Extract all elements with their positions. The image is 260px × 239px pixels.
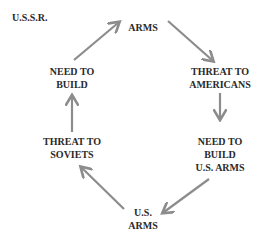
node-label: NEED TO [195, 135, 244, 148]
node-label: BUILD [195, 148, 244, 161]
node-label: ARMS [128, 219, 157, 232]
node-label: ARMS [128, 21, 157, 34]
node-arms: ARMS [128, 21, 157, 34]
node-label: AMERICANS [189, 78, 251, 91]
node-label: THREAT TO [43, 135, 101, 148]
arrow-need-build-us-to-us-arms [164, 179, 209, 212]
node-need-to-build: NEED TO BUILD [50, 65, 94, 91]
node-need-to-build-us-arms: NEED TO BUILD U.S. ARMS [195, 135, 244, 174]
arrow-arms-to-threat-americans [168, 21, 212, 60]
node-label: U.S. ARMS [195, 161, 244, 174]
node-label: BUILD [50, 78, 94, 91]
node-label: THREAT TO [189, 65, 251, 78]
node-threat-to-americans: THREAT TO AMERICANS [189, 65, 251, 91]
arrow-need-build-to-arms [74, 23, 118, 60]
node-label: NEED TO [50, 65, 94, 78]
cycle-diagram: U.S.S.R. ARMS THREAT TO AMERICANS NEED T… [0, 0, 260, 239]
node-us-arms: U.S. ARMS [128, 206, 157, 232]
node-label: SOVIETS [43, 148, 101, 161]
arrows [0, 0, 260, 239]
node-threat-to-soviets: THREAT TO SOVIETS [43, 135, 101, 161]
node-label: U.S. [128, 206, 157, 219]
arrow-us-arms-to-threat-soviets [82, 168, 124, 209]
